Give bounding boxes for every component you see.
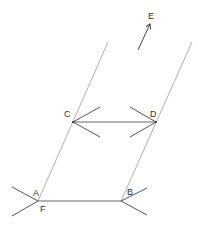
label-e: E [148, 11, 154, 21]
point-d-dot [155, 121, 157, 123]
arrow-e [138, 24, 150, 50]
label-f: F [40, 204, 46, 214]
point-c-dot [72, 121, 74, 123]
label-b: B [127, 187, 133, 197]
construction-mark-a-lower [12, 201, 38, 216]
label-a: A [33, 188, 39, 198]
label-d: D [150, 109, 157, 119]
label-c: C [64, 109, 71, 119]
construction-mark-c-lower [73, 122, 100, 137]
construction-mark-c-upper [73, 107, 100, 122]
geometry-diagram: E C D A F B [0, 0, 198, 226]
construction-mark-b-lower [121, 201, 147, 215]
construction-mark-b-upper [121, 188, 147, 201]
construction-mark-d-lower [130, 122, 156, 137]
